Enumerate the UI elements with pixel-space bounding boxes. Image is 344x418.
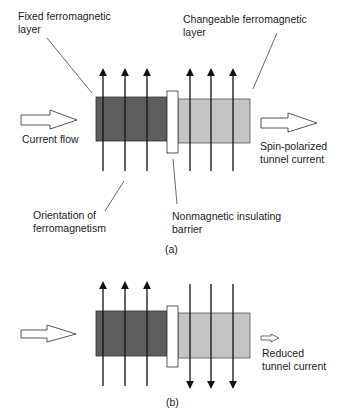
fixed-layer-b [96,311,167,356]
caption-b: (b) [166,396,179,409]
barrier-label-line1: Nonmagnetic insulating [172,210,281,223]
spin-polarized-label: Spin-polarized tunnel current [260,140,327,165]
spin-polarized-label-line1: Spin-polarized [260,140,327,153]
reduced-current-label: Reduced tunnel current [262,347,326,372]
fixed-layer-label: Fixed ferromagnetic layer [18,10,111,35]
changeable-layer-a [178,99,250,143]
orientation-label-line2: ferromagnetism [33,222,106,235]
barrier-label: Nonmagnetic insulating barrier [172,210,281,235]
orientation-label-line1: Orientation of [33,209,106,222]
mtj-diagram: Fixed ferromagnetic layer Changeable fer… [0,0,344,418]
panel-b [21,284,279,386]
barrier-a [167,91,178,153]
spin-polarized-label-line2: tunnel current [260,153,327,166]
panel-a [21,33,317,211]
orientation-label: Orientation of ferromagnetism [33,209,106,234]
caption-a: (a) [165,243,178,256]
barrier-label-line2: barrier [172,223,281,236]
changeable-layer-label: Changeable ferromagnetic layer [183,13,307,38]
current-flow-label: Current flow [22,133,79,146]
reduced-current-label-line1: Reduced [262,347,326,360]
fixed-layer-label-line2: layer [18,23,111,36]
spin-polarized-arrow [261,113,317,132]
changeable-layer-label-line1: Changeable ferromagnetic [183,13,307,26]
barrier-b [167,306,178,367]
fixed-layer-a [96,97,167,141]
changeable-layer-label-line2: layer [183,26,307,39]
current-flow-arrow-b [21,325,76,342]
changeable-layer-b [178,313,250,358]
reduced-current-arrow [261,334,279,342]
fixed-layer-label-line1: Fixed ferromagnetic [18,10,111,23]
reduced-current-label-line2: tunnel current [262,360,326,373]
current-flow-arrow-a [21,110,77,129]
